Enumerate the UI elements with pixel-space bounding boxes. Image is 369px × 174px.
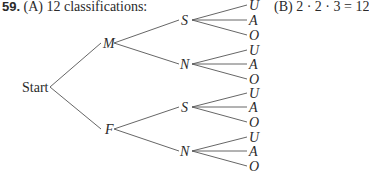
tree-edge [50,87,101,129]
tree-edge [192,107,247,122]
tree-leaf-u: U [249,130,260,145]
tree-labels: StartMFSNSNUAOUAOUAOUAO [22,0,260,174]
tree-leaf-o: O [249,72,259,87]
tree-node-s: S [181,13,188,28]
tree-leaf-a: A [248,57,258,72]
tree-node-m: M [102,36,116,51]
tree-edge [192,151,247,166]
tree-edge [50,43,101,87]
tree-node-n: N [179,144,190,159]
tree-edge [192,5,247,20]
tree-node-n: N [179,57,190,72]
tree-edge [192,93,247,107]
tree-leaf-u: U [249,43,260,58]
tree-leaf-o: O [249,28,259,43]
tree-edge [114,107,179,129]
tree-edge [192,64,247,79]
tree-node-start: Start [22,80,49,95]
tree-edge [114,129,179,151]
tree-node-f: F [104,122,114,137]
tree-leaf-a: A [248,100,258,115]
tree-leaf-o: O [249,115,259,130]
tree-leaf-a: A [248,144,258,159]
tree-leaf-u: U [249,0,260,13]
tree-edge [192,20,247,35]
tree-edge [192,137,247,151]
tree-edge [114,20,179,43]
tree-leaf-o: O [249,159,259,174]
tree-node-s: S [181,100,188,115]
tree-edge [114,43,179,64]
tree-edge [192,50,247,64]
tree-edges [50,5,247,166]
tree-leaf-a: A [248,13,258,28]
tree-leaf-u: U [249,86,260,101]
